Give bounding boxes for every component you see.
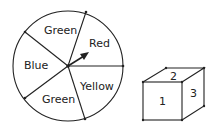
spinner-label-red: Red [89, 37, 110, 50]
cube-face-label-1: 1 [159, 95, 166, 108]
spinner-label-blue: Blue [24, 59, 49, 72]
cube-face-label-2: 2 [170, 70, 177, 83]
spinner-label-green-top: Green [44, 24, 77, 37]
spinner-label-yellow: Yellow [79, 80, 114, 93]
cube-face-label-3: 3 [190, 87, 197, 100]
spinner-label-green-bottom: Green [42, 93, 75, 106]
diagram: Green Red Yellow Green Blue 1 2 3 [0, 0, 218, 130]
arrow-icon [68, 52, 89, 66]
